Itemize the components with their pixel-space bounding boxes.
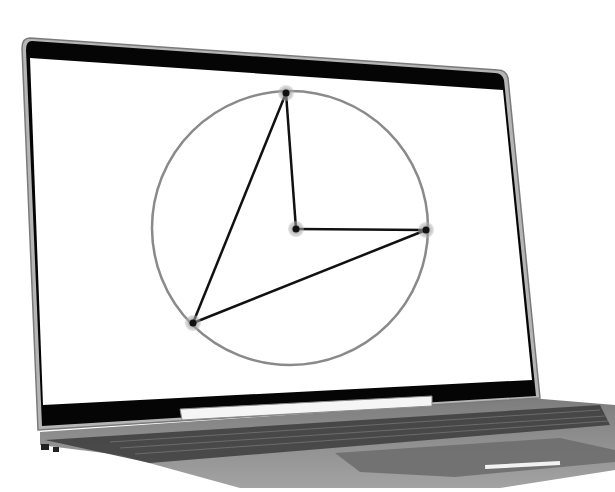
point-right (418, 222, 434, 238)
laptop-scene (0, 0, 615, 492)
laptop-illustration (0, 0, 615, 492)
point-bottom-left (185, 315, 201, 331)
screen (30, 58, 532, 405)
point-center (288, 221, 304, 237)
point-top (278, 85, 294, 101)
segment-center-right (296, 229, 426, 230)
usb-port (41, 444, 49, 450)
usb-c-port (53, 447, 59, 452)
